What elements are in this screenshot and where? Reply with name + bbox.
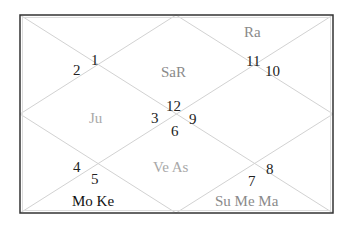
astrology-chart: 1 2 3 4 5 6 7 8 9 10 11 12 SaR Ra Ju Ve … <box>0 0 353 227</box>
house-number-4: 4 <box>73 160 81 175</box>
house-number-1: 1 <box>91 53 99 68</box>
planets-house-1: SaR <box>161 65 186 80</box>
planets-house-3: Ju <box>89 111 102 126</box>
house-number-12: 12 <box>166 99 181 114</box>
planets-house-6: Ve As <box>153 160 188 175</box>
house-number-6: 6 <box>171 124 179 139</box>
house-number-8: 8 <box>266 162 274 177</box>
house-number-7: 7 <box>248 174 256 189</box>
house-number-3: 3 <box>151 111 159 126</box>
house-number-11: 11 <box>246 54 260 69</box>
house-number-9: 9 <box>189 112 197 127</box>
planets-house-11: Ra <box>244 25 261 40</box>
house-number-5: 5 <box>91 172 99 187</box>
planets-house-7: Su Me Ma <box>215 194 278 209</box>
house-number-10: 10 <box>265 64 280 79</box>
house-number-2: 2 <box>73 63 81 78</box>
planets-house-5: Mo Ke <box>72 194 114 209</box>
